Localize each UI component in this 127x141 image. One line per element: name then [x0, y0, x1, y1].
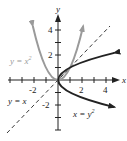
x-tick-label-2: 2: [79, 85, 84, 95]
label-x-equals-y-squared: x = y2: [72, 108, 95, 119]
y-tick-label-2: 2: [48, 50, 53, 60]
y-tick-label-4: 4: [48, 25, 53, 35]
graph: x -2 2 4 y 4 2 -2 y = x2 y = x x = y2: [0, 0, 127, 141]
x-tick-label-4: 4: [103, 85, 108, 95]
x-tick-label-neg2: -2: [29, 85, 37, 95]
x-axis: x -2 2 4: [8, 75, 126, 95]
y-tick-label-neg2: -2: [42, 100, 50, 110]
label-y-equals-x: y = x: [7, 96, 27, 106]
x-axis-label: x: [121, 75, 126, 85]
label-y-equals-x-squared: y = x2: [9, 55, 32, 66]
y-axis-label: y: [55, 4, 60, 14]
